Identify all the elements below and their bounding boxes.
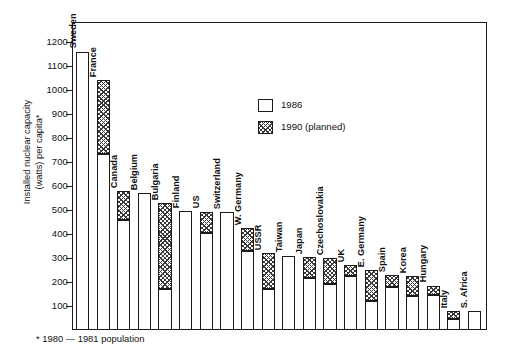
bar-segment-1986: [117, 220, 130, 330]
bar-category-label: Sweden: [69, 14, 78, 49]
bar-category-label: Italy: [440, 289, 449, 307]
bar-category-label: S. Africa: [461, 271, 470, 308]
y-axis-tick-label: 1000: [46, 85, 68, 95]
bar-segment-1990-planned: [241, 228, 254, 251]
nuclear-capacity-bar-chart: Installed nuclear capacity (watts) per c…: [0, 0, 508, 361]
y-axis-tick-label: 1100: [47, 61, 68, 71]
bar-category-label: Japan: [296, 227, 305, 254]
bar-sweden: Sweden: [76, 52, 89, 330]
bar-segment-1990-planned: [365, 270, 378, 301]
bar-france: France: [97, 80, 110, 330]
footnote: * 1980 — 1981 population: [36, 333, 144, 344]
bar-hungary: Hungary: [427, 286, 440, 330]
bar-canada: Canada: [117, 191, 130, 330]
bar-segment-1986: [158, 289, 171, 330]
bar-segment-1986: [97, 154, 110, 330]
bar-segment-1986: [323, 284, 336, 330]
bar-category-label: W. Germany: [234, 172, 243, 225]
bar-segment-1990-planned: [406, 276, 419, 296]
legend-item-1986: 1986: [258, 96, 346, 114]
bar-czechoslovakia: Czechoslovakia: [323, 258, 336, 330]
bar-segment-1986: [138, 193, 151, 330]
bar-finland: Finland: [179, 211, 192, 330]
bar-segment-1986: [76, 52, 89, 330]
bar-category-label: UK: [337, 248, 346, 261]
bar-segment-1986: [447, 319, 460, 330]
plain-square-icon: [258, 99, 273, 112]
y-axis-tick-label: 1200: [46, 37, 68, 47]
bar-uk: UK: [344, 265, 357, 330]
plot-area: SwedenFranceCanadaBelgiumBulgariaFinland…: [72, 22, 487, 330]
bar-us: US: [200, 212, 213, 330]
bar-belgium: Belgium: [138, 193, 151, 330]
legend-label: 1990 (planned): [281, 122, 346, 132]
bar-category-label: France: [89, 47, 98, 77]
bar-category-label: Belgium: [131, 154, 140, 190]
bar-segment-1990-planned: [200, 212, 213, 234]
bar-segment-1990-planned: [158, 203, 171, 289]
bar-segment-1990-planned: [303, 257, 316, 279]
bar-segment-1990-planned: [427, 286, 440, 296]
bar-segment-1986: [344, 276, 357, 330]
y-axis-title: Installed nuclear capacity (watts) per c…: [21, 57, 45, 247]
bar-e-germany: E. Germany: [365, 270, 378, 330]
bar-category-label: Hungary: [419, 245, 428, 282]
bar-segment-1990-planned: [262, 253, 275, 289]
bar-w-germany: W. Germany: [241, 228, 254, 330]
bar-category-label: Canada: [110, 155, 119, 188]
bar-segment-1986: [427, 295, 440, 330]
bar-segment-1986: [220, 212, 233, 330]
bar-category-label: Bulgaria: [151, 163, 160, 200]
bar-segment-1986: [303, 278, 316, 330]
bar-taiwan: Taiwan: [282, 256, 295, 330]
bar-category-label: Czechoslovakia: [316, 186, 325, 255]
bar-segment-1986: [385, 287, 398, 330]
bar-korea: Korea: [406, 276, 419, 330]
bar-category-label: Korea: [399, 247, 408, 273]
bar-ussr: USSR: [262, 253, 275, 330]
bar-segment-1986: [468, 311, 481, 330]
bar-category-label: Switzerland: [213, 158, 222, 209]
bar-spain: Spain: [385, 275, 398, 330]
bar-italy: Italy: [447, 311, 460, 330]
bar-category-label: Taiwan: [275, 222, 284, 252]
bar-segment-1986: [262, 289, 275, 330]
bar-segment-1986: [282, 256, 295, 330]
y-axis: Installed nuclear capacity (watts) per c…: [0, 0, 72, 361]
bar-segment-1990-planned: [97, 80, 110, 153]
bar-segment-1990-planned: [385, 275, 398, 287]
bar-switzerland: Switzerland: [220, 212, 233, 330]
bar-segment-1986: [406, 296, 419, 330]
bar-segment-1990-planned: [447, 311, 460, 319]
bar-segment-1990-planned: [117, 191, 130, 219]
bar-segment-1986: [179, 211, 192, 330]
bar-segment-1990-planned: [323, 258, 336, 284]
legend: 1986 1990 (planned): [258, 96, 346, 140]
bar-segment-1986: [200, 233, 213, 330]
legend-label: 1986: [281, 100, 302, 110]
bar-category-label: Finland: [172, 176, 181, 209]
bar-s-africa: S. Africa: [468, 311, 481, 330]
legend-item-1990-planned: 1990 (planned): [258, 118, 346, 136]
crosshatch-square-icon: [258, 121, 273, 134]
bar-category-label: E. Germany: [357, 216, 366, 267]
bar-category-label: Spain: [378, 247, 387, 272]
bar-bulgaria: Bulgaria: [158, 203, 171, 330]
bar-segment-1986: [241, 251, 254, 330]
bar-category-label: US: [193, 196, 202, 209]
bar-japan: Japan: [303, 257, 316, 330]
bar-segment-1986: [365, 301, 378, 330]
bar-category-label: USSR: [254, 224, 263, 250]
